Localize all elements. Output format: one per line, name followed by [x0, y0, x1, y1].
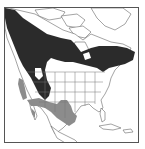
north-america-map: [5, 8, 139, 143]
map-frame: [4, 7, 139, 143]
